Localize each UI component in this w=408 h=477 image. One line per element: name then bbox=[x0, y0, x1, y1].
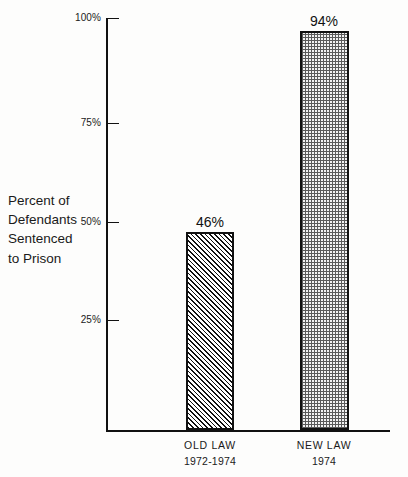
x-category-new-law-title: NEW LAW bbox=[264, 437, 384, 453]
x-category-new-law: NEW LAW 1974 bbox=[264, 437, 384, 469]
y-tick-label-100-wrap: 100% bbox=[0, 12, 101, 24]
y-axis-title-line-1: Percent of bbox=[8, 191, 104, 210]
y-tick-100 bbox=[108, 18, 119, 19]
y-axis-title-line-2: Defendants bbox=[8, 210, 104, 229]
y-tick-label-25-wrap: 25% bbox=[0, 314, 101, 326]
x-category-old-law-years: 1972-1974 bbox=[150, 453, 270, 469]
y-tick-label-100: 100% bbox=[1, 12, 101, 23]
y-tick-50 bbox=[108, 222, 119, 223]
bar-value-label-old-law: 46% bbox=[176, 214, 244, 230]
y-tick-label-25: 25% bbox=[1, 314, 101, 325]
bar-old-law bbox=[186, 232, 234, 430]
y-tick-75 bbox=[108, 123, 119, 124]
y-axis-title-line-3: Sentenced bbox=[8, 229, 104, 248]
y-axis-line bbox=[106, 18, 108, 432]
x-category-old-law: OLD LAW 1972-1974 bbox=[150, 437, 270, 469]
y-tick-label-75: 75% bbox=[1, 117, 101, 128]
bar-chart-figure: 100% 75% 50% 25% Percent of Defendants S… bbox=[0, 0, 408, 477]
y-tick-25 bbox=[108, 320, 119, 321]
y-tick-label-75-wrap: 75% bbox=[0, 117, 101, 129]
bar-new-law bbox=[300, 31, 349, 430]
x-category-old-law-title: OLD LAW bbox=[150, 437, 270, 453]
x-category-new-law-years: 1974 bbox=[264, 453, 384, 469]
y-axis-title: Percent of Defendants Sentenced to Priso… bbox=[8, 191, 104, 268]
x-axis-line bbox=[106, 430, 390, 432]
bar-value-label-new-law: 94% bbox=[290, 13, 358, 29]
y-axis-title-line-4: to Prison bbox=[8, 249, 104, 268]
